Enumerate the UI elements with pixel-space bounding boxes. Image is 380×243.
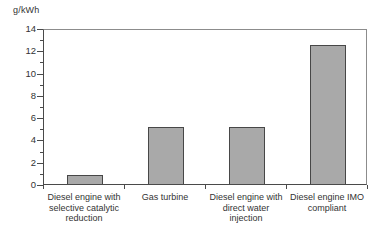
y-minor-tick [40,174,43,175]
x-category-label-line: reduction [40,213,128,224]
x-category-label-2: Gas turbine [121,192,209,203]
y-major-tick [37,118,43,119]
y-tick-label-12: 12 [12,46,36,56]
y-tick-label-10: 10 [12,69,36,79]
x-category-label-line: Gas turbine [121,192,209,203]
y-major-tick [37,74,43,75]
y-tick-label-8: 8 [12,91,36,101]
y-tick-label-4: 4 [12,135,36,145]
x-category-label-4: Diesel engine IMOcompliant [283,192,371,213]
plot-area [43,29,367,185]
x-category-label-line: Diesel engine with [202,192,290,203]
x-category-label-line: Diesel engine with [40,192,128,203]
y-minor-tick [40,129,43,130]
x-category-label-line: Diesel engine IMO [283,192,371,203]
y-minor-tick [40,40,43,41]
x-category-label-line: selective catalytic [40,203,128,214]
y-axis-title: g/kWh [13,5,40,15]
bar-chart-figure: g/kWh 02468101214Diesel engine withselec… [0,0,380,243]
y-major-tick [37,29,43,30]
x-category-label-3: Diesel engine withdirect waterinjection [202,192,290,224]
x-category-label-line: injection [202,213,290,224]
y-major-tick [37,163,43,164]
x-category-label-1: Diesel engine withselective catalyticred… [40,192,128,224]
y-minor-tick [40,62,43,63]
y-minor-tick [40,107,43,108]
y-tick-label-14: 14 [12,24,36,34]
y-tick-label-0: 0 [12,180,36,190]
x-boundary-tick [286,185,287,189]
y-tick-label-2: 2 [12,158,36,168]
y-major-tick [37,140,43,141]
x-boundary-tick [124,185,125,189]
bar-2 [148,127,184,184]
x-boundary-tick [43,185,44,189]
y-minor-tick [40,85,43,86]
bar-3 [229,127,265,184]
y-major-tick [37,51,43,52]
y-major-tick [37,96,43,97]
x-boundary-tick [205,185,206,189]
x-boundary-tick [367,185,368,189]
y-minor-tick [40,152,43,153]
bar-4 [310,45,346,184]
bar-1 [67,175,103,184]
x-category-label-line: direct water [202,203,290,214]
x-category-label-line: compliant [283,203,371,214]
y-tick-label-6: 6 [12,113,36,123]
